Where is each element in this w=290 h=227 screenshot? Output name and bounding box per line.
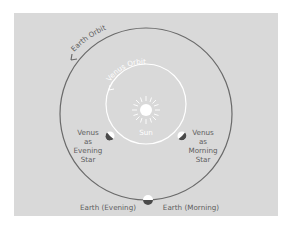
sun-label: Sun [139,128,153,137]
sun-icon [132,96,160,124]
venus-evening-label: Venus as Evening Star [74,128,103,164]
svg-text:Venus: Venus [77,128,99,137]
venus-morning-label: Venus as Morning Star [188,128,217,164]
venus-orbit-label: Venus Orbit [104,57,146,83]
svg-text:as: as [199,137,207,146]
svg-text:as: as [84,137,92,146]
svg-text:Venus: Venus [192,128,214,137]
svg-text:Star: Star [81,155,96,164]
svg-text:Morning: Morning [188,146,217,155]
svg-text:Evening: Evening [74,146,103,155]
svg-text:Star: Star [196,155,211,164]
venus-morning-marker [178,132,187,141]
earth-marker [143,195,153,205]
orbit-direction-arrow-icon [71,54,77,60]
venus-evening-marker [106,132,115,141]
earth-morning-label: Earth (Morning) [163,203,219,212]
earth-orbit-label: Earth Orbit [69,23,107,54]
earth-evening-label: Earth (Evening) [80,203,136,212]
venus-orbit-arrow-icon [109,85,114,90]
orbit-diagram: Earth Orbit Venus Orbit Sun [0,0,290,227]
